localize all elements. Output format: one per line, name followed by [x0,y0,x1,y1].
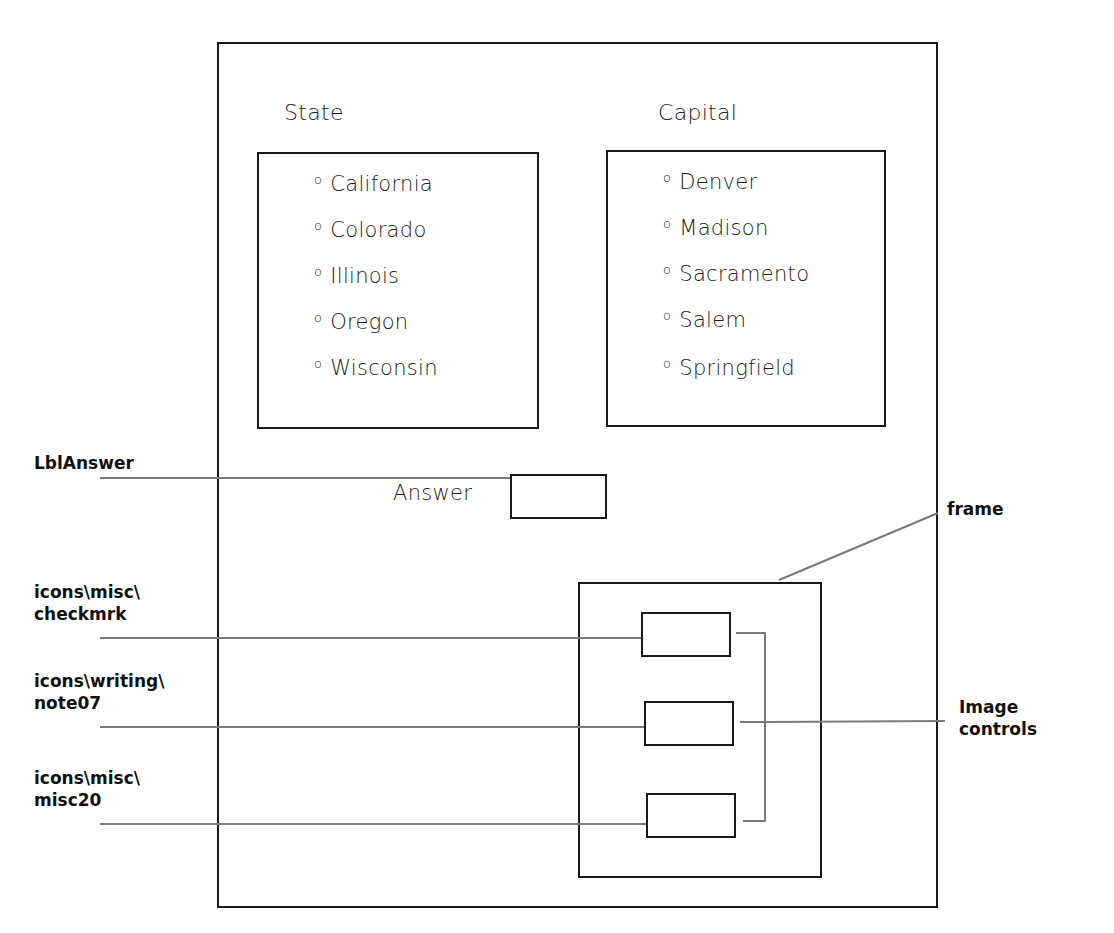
image-controls-leader-line [740,721,945,722]
frame-leader-line [779,513,938,580]
callout-checkmrk: icons\misc\ checkmrk [34,581,140,625]
callout-frame: frame [947,498,1004,520]
image-controls-bracket [736,633,765,821]
callout-image-controls: Image controls [959,696,1037,740]
leader-lines [0,0,1114,933]
callout-lblanswer: LblAnswer [34,452,134,474]
callout-note07: icons\writing\ note07 [34,670,164,714]
callout-misc20: icons\misc\ misc20 [34,767,140,811]
